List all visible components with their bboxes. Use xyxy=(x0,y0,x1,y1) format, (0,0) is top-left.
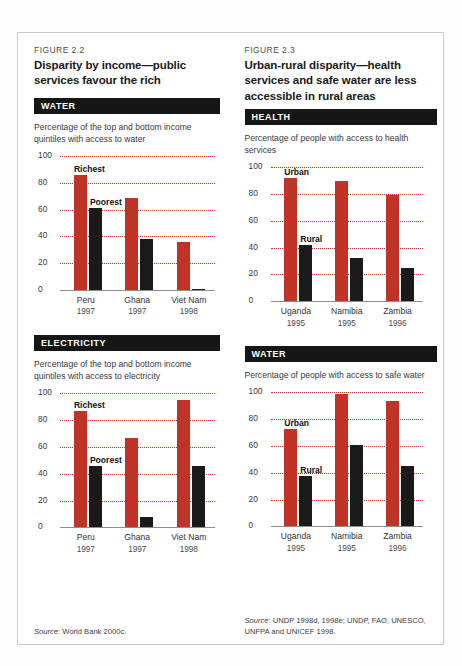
x-label-country: Peru xyxy=(60,531,112,543)
bar-group xyxy=(372,392,423,526)
gridline xyxy=(271,526,424,527)
series-label-urban: Urban xyxy=(284,167,309,177)
bar-urban xyxy=(284,178,297,301)
source-text: World Bank 2000c. xyxy=(62,627,126,636)
bar-poorest xyxy=(192,466,205,528)
series-label-richest: Richest xyxy=(74,400,105,410)
x-axis-labels: Uganda1995Namibia1995Zambia1996 xyxy=(271,530,424,560)
x-axis-tick-label: Zambia1996 xyxy=(372,305,423,335)
y-axis-tick-label: 20 xyxy=(38,257,60,267)
x-label-country: Zambia xyxy=(372,530,423,542)
x-label-country: Namibia xyxy=(321,530,372,542)
y-axis-tick-label: 40 xyxy=(38,230,60,240)
x-label-year: 1995 xyxy=(321,543,372,555)
series-label-poorest: Poorest xyxy=(90,197,122,207)
y-axis-tick-label: 0 xyxy=(38,521,60,531)
section-subtitle-electricity: Percentage of the top and bottom income … xyxy=(34,358,221,382)
x-axis-labels: Peru1997Ghana1997Viet Nam1998 xyxy=(60,531,215,561)
section-band-water: WATER xyxy=(34,98,220,114)
gridline xyxy=(60,290,215,291)
x-axis-labels: Uganda1995Namibia1995Zambia1996 xyxy=(271,305,424,335)
x-axis-tick-label: Uganda1995 xyxy=(271,530,322,560)
x-axis-tick-label: Namibia1995 xyxy=(321,530,372,560)
section-spacer xyxy=(245,337,430,346)
bar-groups xyxy=(60,393,215,527)
source-prefix: Source: xyxy=(34,627,60,636)
x-label-country: Zambia xyxy=(372,305,423,317)
y-axis-tick-label: 20 xyxy=(249,494,271,504)
bar-group xyxy=(60,156,112,290)
plot-area: 020406080100UrbanRural xyxy=(271,167,424,301)
bar-group xyxy=(163,393,215,527)
bar-rural xyxy=(401,268,414,302)
bar-richest xyxy=(125,198,138,290)
series-label-rural: Rural xyxy=(300,465,322,475)
y-axis-tick-label: 60 xyxy=(38,441,60,451)
x-label-year: 1997 xyxy=(112,544,164,556)
section-band-water: WATER xyxy=(245,346,437,362)
gridline xyxy=(271,301,424,302)
bar-group xyxy=(372,167,423,301)
y-axis-tick-label: 60 xyxy=(38,204,60,214)
x-label-year: 1995 xyxy=(271,543,322,555)
chart-income-electricity: 020406080100RichestPoorestPeru1997Ghana1… xyxy=(36,385,221,563)
series-label-richest: Richest xyxy=(74,164,105,174)
plot-area: 020406080100RichestPoorest xyxy=(60,156,215,290)
plot-area: 020406080100RichestPoorest xyxy=(60,393,215,527)
y-axis-tick-label: 20 xyxy=(249,268,271,278)
figure-panel-2-2: FIGURE 2.2 Disparity by income—public se… xyxy=(18,33,231,644)
bar-group xyxy=(321,167,372,301)
bar-group xyxy=(163,156,215,290)
x-label-year: 1998 xyxy=(163,544,215,556)
x-label-year: 1996 xyxy=(372,318,423,330)
bar-groups xyxy=(271,167,424,301)
source-text: UNDP 1998d, 1998e; UNDP, FAO, UNESCO, UN… xyxy=(245,616,426,636)
x-axis-tick-label: Viet Nam1998 xyxy=(163,294,215,324)
y-axis-tick-label: 40 xyxy=(38,468,60,478)
bar-rural xyxy=(350,258,363,301)
x-label-year: 1995 xyxy=(271,318,322,330)
section-subtitle-water: Percentage of people with access to safe… xyxy=(245,369,430,381)
y-axis-tick-label: 0 xyxy=(38,284,60,294)
x-label-country: Peru xyxy=(60,294,112,306)
bar-rural xyxy=(350,445,363,527)
x-label-year: 1998 xyxy=(163,306,215,318)
y-axis-tick-label: 100 xyxy=(249,386,271,396)
bar-poorest xyxy=(140,239,153,290)
bar-richest xyxy=(74,175,87,290)
source-prefix: Source: xyxy=(245,616,271,625)
y-axis-tick-label: 0 xyxy=(249,295,271,305)
y-axis-tick-label: 80 xyxy=(249,188,271,198)
figure-box: FIGURE 2.2 Disparity by income—public se… xyxy=(17,32,444,645)
x-label-year: 1997 xyxy=(60,306,112,318)
x-label-country: Ghana xyxy=(112,294,164,306)
x-axis-tick-label: Uganda1995 xyxy=(271,305,322,335)
bar-urban xyxy=(335,394,348,527)
bar-group xyxy=(321,392,372,526)
source-note-2-3: Source: UNDP 1998d, 1998e; UNDP, FAO, UN… xyxy=(245,610,430,638)
y-axis-tick-label: 40 xyxy=(249,467,271,477)
y-axis-tick-label: 60 xyxy=(249,215,271,225)
figure-title: Disparity by income—public services favo… xyxy=(34,58,221,89)
source-note-2-2: Source: World Bank 2000c. xyxy=(34,621,221,638)
bar-group xyxy=(112,156,164,290)
figure-number: FIGURE 2.3 xyxy=(245,45,430,55)
y-axis-tick-label: 100 xyxy=(249,161,271,171)
section-band-health: HEALTH xyxy=(245,109,437,125)
y-axis-tick-label: 0 xyxy=(249,520,271,530)
x-axis-tick-label: Zambia1996 xyxy=(372,530,423,560)
y-axis-tick-label: 40 xyxy=(249,242,271,252)
bar-richest xyxy=(177,242,190,290)
series-label-poorest: Poorest xyxy=(90,455,122,465)
series-label-urban: Urban xyxy=(284,418,309,428)
figure-page: FIGURE 2.2 Disparity by income—public se… xyxy=(0,0,462,666)
bar-richest xyxy=(125,438,138,528)
section-spacer xyxy=(34,326,221,335)
x-label-year: 1997 xyxy=(112,306,164,318)
y-axis-tick-label: 60 xyxy=(249,440,271,450)
x-label-country: Uganda xyxy=(271,305,322,317)
x-axis-tick-label: Peru1997 xyxy=(60,531,112,561)
bar-poorest xyxy=(192,289,205,290)
bar-group xyxy=(271,392,322,526)
x-label-country: Viet Nam xyxy=(163,531,215,543)
